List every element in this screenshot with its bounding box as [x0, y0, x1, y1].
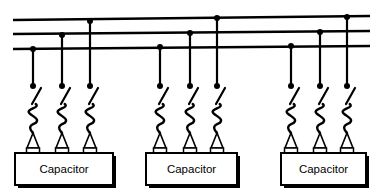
capacitor-units: CapacitorCapacitorCapacitor	[15, 153, 369, 188]
bus-tap-node-phase-b	[59, 32, 65, 38]
bus-tap-node-phase-c	[30, 46, 36, 52]
bus-tap-node-phase-c	[157, 44, 163, 50]
capacitor-label: Capacitor	[167, 163, 216, 175]
capacitor-bank-diagram: CapacitorCapacitorCapacitor	[0, 0, 376, 194]
switch-terminal-node	[59, 83, 65, 89]
capacitor-label: Capacitor	[39, 163, 88, 175]
bus-tap-node-phase-a	[87, 18, 93, 24]
bus-tap-node-phase-b	[317, 29, 323, 35]
switch-terminal-node	[187, 83, 193, 89]
switch-terminal-node	[317, 83, 323, 89]
capacitor-label: Capacitor	[299, 163, 348, 175]
switch-terminal-node	[30, 83, 36, 89]
switch-terminal-node	[157, 83, 163, 89]
switch-terminal-node	[288, 83, 294, 89]
switch-terminal-node	[214, 83, 220, 89]
bus-tap-node-phase-b	[187, 30, 193, 36]
switch-terminal-node	[87, 83, 93, 89]
diagram-canvas: CapacitorCapacitorCapacitor	[0, 0, 376, 194]
bus-tap-node-phase-a	[344, 14, 350, 20]
bus-tap-node-phase-a	[214, 15, 220, 21]
bus-tap-node-phase-c	[288, 43, 294, 49]
switch-terminal-node	[344, 83, 350, 89]
